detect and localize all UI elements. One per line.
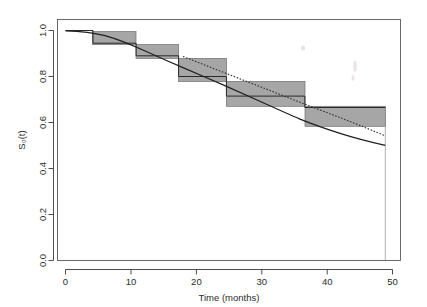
y-axis: 1.0 0.8 0.6 0.4 0.2 0.0 S₀(t) (16, 24, 54, 267)
x-axis-title: Time (months) (199, 292, 260, 303)
scan-artifact-group (301, 45, 357, 81)
y-tick-label-5: 1.0 (37, 24, 48, 37)
y-axis-title: S₀(t) (16, 130, 27, 149)
y-tick-label-4: 0.8 (37, 70, 48, 83)
x-tick-label-5: 50 (387, 276, 398, 287)
y-tick-label-1: 0.2 (37, 208, 48, 221)
x-tick-label-4: 40 (322, 276, 333, 287)
confidence-rect-4 (227, 81, 306, 106)
x-tick-label-1: 10 (126, 276, 137, 287)
x-tick-label-0: 0 (63, 276, 68, 287)
x-tick-label-3: 30 (257, 276, 268, 287)
y-tick-label-2: 0.4 (37, 162, 48, 175)
confidence-rect-3 (179, 58, 227, 81)
plot-frame (58, 20, 401, 261)
y-tick-label-3: 0.6 (37, 116, 48, 129)
plot-svg: 1.0 0.8 0.6 0.4 0.2 0.0 S₀(t) 0 10 20 30… (0, 0, 427, 307)
survival-function-figure: 1.0 0.8 0.6 0.4 0.2 0.0 S₀(t) 0 10 20 30… (0, 0, 427, 307)
y-tick-label-0: 0.0 (37, 254, 48, 267)
x-tick-label-2: 20 (191, 276, 202, 287)
fitted-solid-curve (66, 31, 386, 145)
x-axis: 0 10 20 30 40 50 Time (months) (63, 270, 398, 304)
